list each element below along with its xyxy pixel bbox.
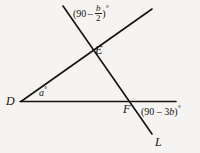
degree-symbol: °	[178, 104, 181, 113]
expression-prefix: (90 – 3	[141, 106, 169, 117]
minus-operator: –	[86, 9, 94, 19]
degree-symbol: °	[106, 5, 109, 13]
point-label-L: L	[155, 136, 162, 148]
point-label-E: E	[95, 44, 102, 56]
geometry-figure: D E F L a° (90–b2)° (90 – 3b)°	[0, 0, 200, 153]
point-label-D: D	[6, 95, 15, 107]
angle-label-90-minus-3b: (90 – 3b)°	[141, 105, 181, 117]
line-through-E-F-to-L	[63, 6, 152, 134]
constant-90: 90	[76, 9, 86, 19]
angle-label-a: a°	[39, 86, 47, 98]
fraction-numerator: b	[95, 4, 102, 13]
angle-label-90-minus-b-over-2: (90–b2)°	[73, 4, 109, 23]
fraction-b-over-2: b2	[95, 4, 102, 23]
fraction-denominator: 2	[95, 14, 102, 23]
point-label-F: F	[123, 103, 130, 115]
degree-symbol: °	[44, 85, 47, 94]
